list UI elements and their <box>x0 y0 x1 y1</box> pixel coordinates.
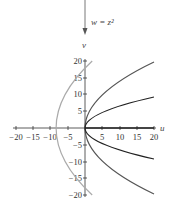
svg-text:−15: −15 <box>69 173 82 183</box>
svg-text:5: 5 <box>100 132 104 142</box>
mapping-label: w = z² <box>91 17 114 27</box>
chart: w = z² v u −20 −15 −10 −5 5 10 15 20 20 … <box>0 0 171 206</box>
mapping-arrow <box>83 0 88 35</box>
svg-text:10: 10 <box>74 89 83 99</box>
x-tick-labels: −20 −15 −10 −5 5 10 15 20 <box>9 132 158 142</box>
svg-text:−5: −5 <box>63 132 72 142</box>
svg-text:−20: −20 <box>9 132 22 142</box>
svg-text:15: 15 <box>74 73 83 83</box>
svg-text:20: 20 <box>150 132 159 142</box>
svg-text:−5: −5 <box>73 140 82 150</box>
svg-text:−10: −10 <box>43 132 56 142</box>
svg-text:15: 15 <box>133 132 142 142</box>
svg-text:20: 20 <box>74 56 83 66</box>
svg-text:−20: −20 <box>69 190 82 200</box>
svg-text:5: 5 <box>78 106 82 116</box>
x-axis-label: u <box>160 123 165 133</box>
svg-text:10: 10 <box>116 132 125 142</box>
svg-text:−10: −10 <box>69 157 82 167</box>
y-axis-label: v <box>82 40 86 50</box>
svg-text:−15: −15 <box>26 132 39 142</box>
